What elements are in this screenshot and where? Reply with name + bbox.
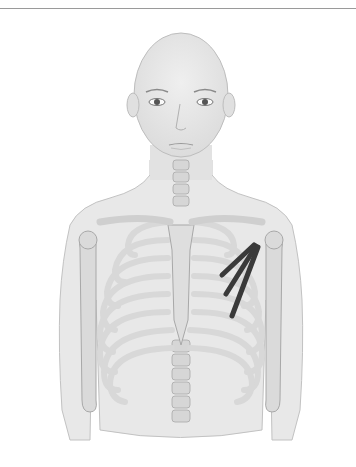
torso-illustration — [0, 0, 356, 467]
anatomy-figure — [0, 0, 356, 467]
